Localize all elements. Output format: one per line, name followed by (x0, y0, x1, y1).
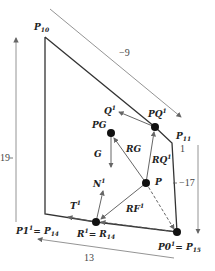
vector-T1 (68, 217, 96, 222)
force-vectors (68, 112, 177, 232)
label-RQ1: RQ1 (152, 154, 172, 165)
label-P11: P11 (176, 132, 191, 142)
dimension-bottom-label: 13 (84, 253, 94, 263)
label-N1: N1 (93, 178, 105, 189)
mechanics-diagram: P10 P11 P11= P14 PG PQ1 P R1= R14 P01= P… (0, 0, 215, 271)
node-R1 (92, 218, 100, 226)
dashed-P-to-P01 (146, 183, 174, 229)
label-RF1: RF1 (126, 203, 144, 214)
node-P01 (173, 228, 181, 236)
node-PQ1 (151, 123, 159, 131)
bottom-dimension-arrow (38, 239, 174, 258)
node-PG (107, 129, 115, 137)
dimension-arrows (16, 9, 198, 258)
label-T1: T1 (70, 200, 81, 211)
label-P10: P10 (34, 23, 49, 33)
dimension-right-small-label: 1 (180, 144, 185, 154)
node-P (142, 179, 150, 187)
dimension-right-label: −17 (179, 178, 195, 188)
dimension-top-label: −9 (119, 48, 130, 58)
label-Q1: Q1 (104, 105, 116, 116)
label-G: G (94, 150, 102, 159)
vector-N1 (96, 191, 103, 222)
dimension-left-label: 19 (0, 153, 10, 163)
label-PQ1: PQ1 (148, 108, 167, 119)
label-P01: P01= P15 (158, 241, 201, 253)
label-RG: RG (126, 145, 141, 154)
top-dimension-arrow (50, 9, 181, 117)
label-PG: PG (92, 121, 106, 130)
label-R1: R1= R14 (77, 228, 115, 240)
label-P1-1: P11= P14 (16, 225, 59, 237)
label-P: P (155, 178, 162, 187)
